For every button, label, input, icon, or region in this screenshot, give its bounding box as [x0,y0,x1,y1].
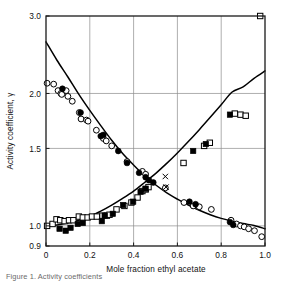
data-point-filled-circle [187,199,193,205]
data-point-open-circle [103,138,109,144]
y-axis-label: Activity coefficient, γ [6,92,15,170]
data-point-filled-square [57,226,62,231]
data-point-open-circle [109,143,115,149]
chart-figure: 00.20.40.60.81.00.91.01.52.03.0 Mole fra… [0,0,284,283]
data-point-open-circle [208,207,214,213]
data-point-open-square [181,160,186,165]
data-point-filled-circle [60,86,66,92]
data-point-filled-square [68,225,73,230]
data-point-filled-square [75,221,80,226]
data-point-filled-square [138,189,143,194]
x-tick-label: 0 [44,250,49,260]
data-point-open-circle [259,234,265,240]
y-tick-label: 3.0 [29,11,41,21]
data-point-filled-circle [230,222,236,228]
x-axis-label: Mole fraction ethyl acetate [106,265,206,274]
data-point-open-circle [246,226,252,232]
x-tick-label: 0.8 [215,250,227,260]
x-tick-label: 0.2 [84,250,96,260]
data-point-filled-square [143,186,148,191]
y-tick-label: 0.9 [29,241,41,251]
data-point-filled-square [102,213,107,218]
activity-coefficient-chart: 00.20.40.60.81.00.91.01.52.03.0 Mole fra… [0,0,284,283]
y-tick-label: 2.0 [29,89,41,99]
data-point-filled-square [130,199,135,204]
data-point-filled-circle [124,160,130,166]
data-point-open-circle [69,98,75,104]
data-point-open-circle [181,200,187,206]
data-point-filled-square [203,141,208,146]
data-point-open-circle [252,228,258,234]
data-point-open-square [238,112,243,117]
y-tick-label: 1.5 [29,144,41,154]
data-point-filled-circle [193,201,199,207]
data-point-filled-square [227,112,232,117]
data-point-filled-circle [78,110,84,116]
data-point-filled-circle [136,170,142,176]
data-point-filled-square [80,220,85,225]
data-point-open-circle [78,116,84,122]
data-point-filled-square [190,148,195,153]
x-tick-label: 1.0 [259,250,271,260]
chart-background [0,0,284,283]
data-point-open-square [94,214,99,219]
data-point-open-circle [51,81,57,87]
data-point-filled-circle [100,132,106,138]
data-point-filled-circle [115,148,121,154]
x-tick-label: 0.4 [128,250,140,260]
figure-caption: Figure 1. Activity coefficients [6,272,102,281]
data-point-filled-square [99,218,104,223]
data-point-open-square [243,113,248,118]
y-tick-label: 1.0 [29,221,41,231]
x-tick-label: 0.6 [172,250,184,260]
data-point-open-circle [44,80,50,86]
data-point-open-circle [93,127,99,133]
data-point-open-circle [85,118,91,124]
data-point-filled-square [120,202,125,207]
data-point-filled-square [110,211,115,216]
data-point-open-circle [65,93,71,99]
